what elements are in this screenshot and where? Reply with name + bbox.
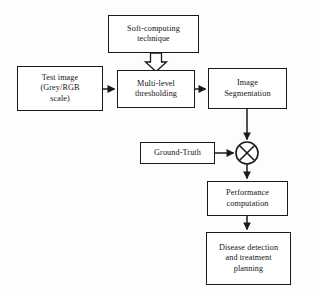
node-performance-computation[interactable]: Performance computation [207, 181, 288, 216]
node-soft-computing-technique[interactable]: Soft-computing technique [108, 15, 199, 53]
node-line: Segmentation [211, 89, 284, 100]
flowchart-canvas: Soft-computing technique Test image (Gre… [0, 0, 313, 296]
node-soft-computing-technique-label: Soft-computing technique [111, 24, 196, 45]
node-ground-truth[interactable]: Ground-Truth [140, 142, 215, 164]
node-image-segmentation[interactable]: Image Segmentation [208, 68, 287, 109]
node-multi-level-thresholding[interactable]: Multi-level thresholding [117, 70, 195, 108]
node-line: Image [211, 78, 284, 89]
node-line: Ground-Truth [143, 148, 212, 159]
node-line: computation [210, 199, 285, 210]
node-ground-truth-label: Ground-Truth [143, 148, 212, 159]
node-multi-level-thresholding-label: Multi-level thresholding [120, 79, 192, 100]
node-line: Test image [20, 73, 100, 84]
node-line: Soft-computing [111, 24, 196, 35]
node-disease-detection[interactable]: Disease detection and treatment planning [206, 232, 291, 285]
node-line: scale) [20, 94, 100, 105]
node-line: Performance [210, 188, 285, 199]
node-test-image[interactable]: Test image (Grey/RGB scale) [17, 66, 103, 111]
node-image-segmentation-label: Image Segmentation [211, 78, 284, 99]
node-disease-detection-label: Disease detection and treatment planning [209, 243, 288, 275]
node-line: thresholding [120, 89, 192, 100]
node-line: (Grey/RGB [20, 83, 100, 94]
node-line: Multi-level [120, 79, 192, 90]
node-line: Disease detection [209, 243, 288, 254]
node-line: technique [111, 34, 196, 45]
node-line: planning [209, 264, 288, 275]
node-test-image-label: Test image (Grey/RGB scale) [20, 73, 100, 105]
node-line: and treatment [209, 253, 288, 264]
node-performance-computation-label: Performance computation [210, 188, 285, 209]
edge-soft-computing-to-thresholding-hollow-arrow [146, 53, 167, 72]
